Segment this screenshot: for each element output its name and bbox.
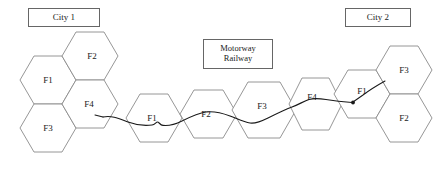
diagram-canvas: F1 F2 F3 F4 F1 F2 F3 F4 F1 F3 F2 [0,0,442,182]
city2-label-text: City 2 [367,12,389,22]
hex-label-city2-f1: F1 [357,86,367,96]
city2-label-box: City 2 [345,8,411,27]
city1-label-box: City 1 [28,8,100,27]
hex-label-corridor-f3: F3 [257,101,267,111]
hexagon-network-diagram: F1 F2 F3 F4 F1 F2 F3 F4 F1 F3 F2 [0,0,442,182]
hex-label-city1-f4: F4 [84,99,94,109]
hex-label-corridor-f1: F1 [147,113,157,123]
corridor-label-railway: Railway [224,54,252,64]
hex-label-city2-f3: F3 [399,65,409,75]
city1-label-text: City 1 [53,12,75,22]
hex-corridor-f4 [289,78,342,130]
hex-label-city2-f2: F2 [399,113,409,123]
hex-label-city1-f3: F3 [43,123,53,133]
corridor-label-box: Motorway Railway [203,39,273,69]
hex-label-city1-f1: F1 [43,75,53,85]
hex-label-city1-f2: F2 [87,51,97,61]
hex-label-corridor-f2: F2 [201,109,211,119]
hex-label-corridor-f4: F4 [307,92,317,102]
